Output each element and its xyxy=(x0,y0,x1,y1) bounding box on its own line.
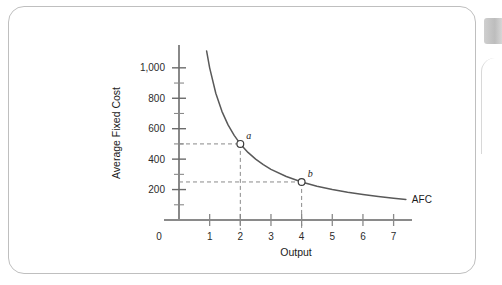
x-tick-label-2: 2 xyxy=(238,231,244,242)
x-tick-label-1: 1 xyxy=(207,231,213,242)
point-b-label: b xyxy=(308,168,313,179)
x-tick-label-3: 3 xyxy=(268,231,274,242)
y-tick-label-400: 400 xyxy=(148,154,165,165)
point-a-label: a xyxy=(246,130,251,141)
y-axis-tick-labels: 2004006008001,000 xyxy=(140,62,165,195)
x-tick-label-4: 4 xyxy=(299,231,305,242)
point-a-marker xyxy=(237,141,244,148)
average-fixed-cost-chart: 2004006008001,000 01234567 ab AFC Output… xyxy=(9,7,477,275)
y-tick-label-200: 200 xyxy=(148,184,165,195)
page-edge-tab-icon xyxy=(484,18,502,44)
point-b-marker xyxy=(298,179,305,186)
x-tick-label-6: 6 xyxy=(360,231,366,242)
chart-svg: 2004006008001,000 01234567 ab AFC Output… xyxy=(9,7,477,275)
x-tick-label-5: 5 xyxy=(330,231,336,242)
x-axis-tick-labels: 01234567 xyxy=(156,231,397,242)
x-axis-title: Output xyxy=(280,246,312,258)
data-point-labels: ab xyxy=(246,130,312,179)
afc-series-label: AFC xyxy=(412,194,432,205)
y-axis-title: Average Fixed Cost xyxy=(110,87,122,179)
data-point-markers xyxy=(237,141,305,186)
y-tick-label-800: 800 xyxy=(148,93,165,104)
x-tick-label-7: 7 xyxy=(391,231,397,242)
page-edge-curl-icon xyxy=(481,58,502,154)
afc-curve xyxy=(207,51,406,200)
x-tick-label-0: 0 xyxy=(156,231,162,242)
figure-frame: 2004006008001,000 01234567 ab AFC Output… xyxy=(8,6,476,274)
annotation-guide-lines xyxy=(179,144,302,230)
y-tick-label-600: 600 xyxy=(148,123,165,134)
y-tick-label-1000: 1,000 xyxy=(140,62,165,73)
